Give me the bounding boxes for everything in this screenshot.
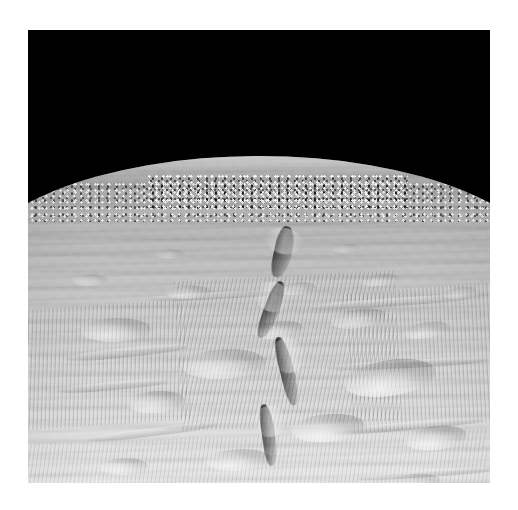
- crater-floor: [181, 347, 266, 381]
- fracture-rim-highlight: [251, 277, 294, 317]
- impact-crater: [402, 318, 450, 342]
- surface-photograph: [28, 30, 490, 483]
- impact-crater: [329, 305, 387, 332]
- crater-floor: [126, 389, 185, 415]
- crater-floor: [402, 318, 450, 342]
- fracture-rim-highlight: [263, 224, 306, 257]
- image-grain-fine: [28, 156, 490, 483]
- terrain-scarp: [68, 342, 188, 363]
- crater-floor: [204, 447, 271, 472]
- crater-floor: [166, 284, 210, 300]
- crater-floor: [155, 249, 185, 259]
- terrain-scarp: [148, 288, 288, 302]
- crater-floor: [72, 274, 108, 287]
- fracture-chasm: [269, 225, 297, 280]
- impact-crater: [126, 389, 185, 415]
- crater-floor: [386, 471, 441, 483]
- terrain-scarp: [358, 465, 490, 482]
- impact-crater: [72, 274, 108, 287]
- terrain-scarp: [58, 377, 168, 395]
- illumination-gradient: [28, 156, 490, 483]
- terrain-scarp: [88, 420, 218, 444]
- surface-feature-layer: [28, 156, 490, 483]
- crater-floor: [276, 280, 317, 296]
- crater-floor: [360, 272, 399, 289]
- impact-crater: [166, 284, 210, 300]
- impact-crater: [155, 249, 185, 259]
- horizon-rubble-belt: [28, 182, 490, 222]
- crater-floor: [342, 353, 438, 403]
- impact-crater: [81, 317, 152, 343]
- fracture-rim-highlight: [267, 334, 308, 376]
- screenshot-canvas: Enceladus North Polar Region: [0, 0, 518, 510]
- impact-crater: [332, 243, 361, 254]
- terrain-scarp: [310, 292, 480, 312]
- impact-crater: [342, 353, 438, 403]
- impact-crater: [181, 347, 266, 381]
- grooves-right: [342, 278, 490, 434]
- lineated-terrain: [28, 156, 490, 483]
- fracture-chasm: [254, 279, 289, 341]
- fracture-rim-highlight: [251, 404, 288, 439]
- crater-floor: [442, 284, 477, 300]
- impact-crater: [276, 280, 317, 296]
- horizon-rubble-belt-2: [148, 174, 408, 208]
- impact-crater: [100, 457, 149, 476]
- crater-floor: [81, 317, 152, 343]
- crater-floor: [252, 318, 304, 341]
- crater-floor: [329, 305, 387, 332]
- crater-floor: [100, 457, 149, 476]
- terrain-scarp: [328, 356, 488, 372]
- grooves-center: [174, 270, 402, 431]
- grooves-left: [28, 299, 192, 433]
- image-grain: [28, 156, 490, 483]
- impact-crater: [442, 284, 477, 300]
- grooves-foreground: [28, 428, 490, 483]
- impact-crater: [252, 318, 304, 341]
- crater-floor: [332, 243, 361, 254]
- impact-crater: [204, 447, 271, 472]
- crater-floor: [404, 422, 468, 453]
- crater-floor: [290, 411, 366, 445]
- impact-crater: [386, 471, 441, 483]
- fracture-chasm: [272, 335, 303, 406]
- fracture-chasm: [258, 403, 280, 466]
- terrain-scarp: [334, 415, 484, 436]
- limb-horizon: [28, 156, 490, 483]
- impact-crater: [404, 422, 468, 453]
- impact-crater: [290, 411, 366, 445]
- impact-crater: [360, 272, 399, 289]
